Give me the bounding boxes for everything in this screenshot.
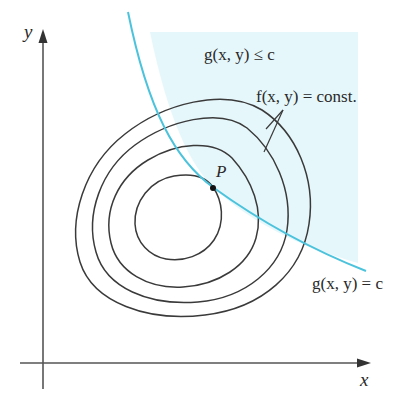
x-axis-arrow-icon: [357, 359, 371, 368]
contour-1: [135, 175, 222, 260]
level-curves-label: f(x, y) = const.: [256, 88, 357, 105]
point-P-label: P: [216, 163, 226, 180]
constraint-label: g(x, y) = c: [312, 275, 383, 292]
point-P-marker: [210, 185, 216, 191]
lagrange-diagram: y x g(x, y) ≤ c f(x, y) = const. P g(x, …: [0, 0, 418, 401]
region-label: g(x, y) ≤ c: [204, 46, 275, 63]
y-axis-label: y: [24, 22, 32, 41]
y-axis-arrow-icon: [39, 29, 48, 43]
x-axis-label: x: [360, 370, 368, 389]
